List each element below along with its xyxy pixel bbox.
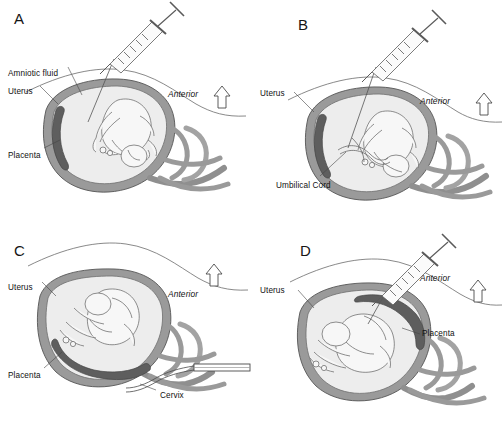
panel-letter-c: C <box>14 242 25 259</box>
syringe-barrel <box>110 22 163 73</box>
label-placenta-a: Placenta <box>8 152 41 160</box>
label-anterior-c: Anterior <box>168 290 198 298</box>
panel-d-illustration <box>252 212 504 423</box>
syringe <box>362 10 446 82</box>
label-placenta-d: Placenta <box>422 330 455 338</box>
syringe-plunger-rod <box>430 242 448 258</box>
fetal-head <box>85 293 111 315</box>
label-cervix-c: Cervix <box>160 392 184 400</box>
panel-c-illustration <box>0 212 252 423</box>
panel-letter-a: A <box>14 10 25 27</box>
syringe-barrel <box>372 30 425 81</box>
syringe-plunger-rod <box>420 18 438 34</box>
label-placenta-c: Placenta <box>8 372 41 380</box>
panel-d: D Uterus Placenta Anterior <box>252 212 504 423</box>
fetal-head <box>322 322 350 346</box>
panel-letter-b: B <box>298 16 309 33</box>
panel-a: A Amniotic fluid Uterus Placenta Anterio… <box>0 0 252 211</box>
figure-obstetric-procedures: A Amniotic fluid Uterus Placenta Anterio… <box>0 0 504 423</box>
label-anterior-b: Anterior <box>420 97 450 105</box>
anterior-arrow-icon <box>476 93 492 115</box>
panel-b: B Uterus Umbilical Cord Anterior <box>252 0 504 211</box>
label-uterus-c: Uterus <box>8 284 33 292</box>
anterior-arrow-icon <box>214 86 230 108</box>
panel-b-illustration <box>252 0 504 211</box>
label-uterus-b: Uterus <box>260 90 285 98</box>
label-uterus-d: Uterus <box>260 287 285 295</box>
label-amniotic-fluid-a: Amniotic fluid <box>8 70 58 78</box>
syringe-plunger-rod <box>158 10 176 26</box>
label-umbilical-cord-b: Umbilical Cord <box>276 182 331 190</box>
label-anterior-d: Anterior <box>420 274 450 282</box>
panel-letter-d: D <box>300 242 311 259</box>
anterior-arrow-icon <box>470 280 486 302</box>
syringe <box>100 2 184 74</box>
anterior-arrow-icon <box>206 264 222 286</box>
label-anterior-a: Anterior <box>168 90 198 98</box>
panel-a-illustration <box>0 0 252 211</box>
panel-c: C Uterus Placenta Cervix Anterior <box>0 212 252 423</box>
label-uterus-a: Uterus <box>8 88 33 96</box>
